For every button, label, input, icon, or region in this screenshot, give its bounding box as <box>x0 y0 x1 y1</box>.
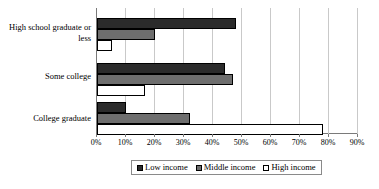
category-label-line1: Some college <box>0 71 91 82</box>
bar-row <box>97 74 357 85</box>
bar-group <box>97 102 357 135</box>
x-tick-label: 40% <box>205 138 220 147</box>
x-tick-mark <box>96 134 97 137</box>
bar-high <box>97 124 323 135</box>
category-label-college-graduate: College graduate <box>0 113 91 124</box>
x-tick-label: 60% <box>263 138 278 147</box>
bar-group <box>97 63 357 96</box>
bar-row <box>97 29 357 40</box>
bar-middle <box>97 113 190 124</box>
x-tick-mark <box>241 134 242 137</box>
x-tick-label: 50% <box>234 138 249 147</box>
bar-row <box>97 85 357 96</box>
bar-row <box>97 63 357 74</box>
bar-middle <box>97 29 155 40</box>
category-axis-labels: High school graduate or less Some colleg… <box>0 8 93 134</box>
legend-item-label: Middle income <box>204 163 256 172</box>
x-tick-label: 10% <box>118 138 133 147</box>
x-tick-label: 90% <box>350 138 365 147</box>
bar-high <box>97 85 145 96</box>
x-tick-label: 30% <box>176 138 191 147</box>
legend-swatch-icon <box>196 165 202 171</box>
category-label-high-school: High school graduate or less <box>0 22 91 43</box>
x-tick-mark <box>154 134 155 137</box>
bar-row <box>97 102 357 113</box>
x-tick-mark <box>357 134 358 137</box>
legend-item-label: Low income <box>145 163 188 172</box>
legend-item[interactable]: High income <box>263 163 315 172</box>
x-tick-label: 70% <box>292 138 307 147</box>
legend-item[interactable]: Low income <box>137 163 188 172</box>
bar-high <box>97 40 112 51</box>
legend-item-label: High income <box>271 163 315 172</box>
gridline <box>357 8 358 134</box>
bar-low <box>97 63 225 74</box>
category-label-some-college: Some college <box>0 71 91 82</box>
x-tick-mark <box>183 134 184 137</box>
x-tick-mark <box>270 134 271 137</box>
category-label-line1: College graduate <box>0 113 91 124</box>
x-tick-mark <box>328 134 329 137</box>
x-axis-ticks: 0%10%20%30%40%50%60%70%80%90% <box>96 136 357 148</box>
x-tick-mark <box>299 134 300 137</box>
plot-area <box>96 8 357 134</box>
legend-swatch-icon <box>263 165 269 171</box>
x-tick-mark <box>125 134 126 137</box>
category-label-line2: less <box>0 33 91 44</box>
x-tick-label: 80% <box>321 138 336 147</box>
bar-low <box>97 102 126 113</box>
bar-chart: High school graduate or less Some colleg… <box>0 0 379 189</box>
bar-row <box>97 124 357 135</box>
bar-row <box>97 113 357 124</box>
x-tick-label: 0% <box>91 138 102 147</box>
legend-item[interactable]: Middle income <box>196 163 256 172</box>
category-label-line1: High school graduate or <box>0 22 91 33</box>
bar-row <box>97 18 357 29</box>
bar-group <box>97 18 357 51</box>
bar-middle <box>97 74 233 85</box>
chart-legend: Low incomeMiddle incomeHigh income <box>131 160 322 175</box>
x-tick-label: 20% <box>147 138 162 147</box>
x-tick-mark <box>212 134 213 137</box>
legend-swatch-icon <box>137 165 143 171</box>
bar-row <box>97 40 357 51</box>
bar-low <box>97 18 236 29</box>
